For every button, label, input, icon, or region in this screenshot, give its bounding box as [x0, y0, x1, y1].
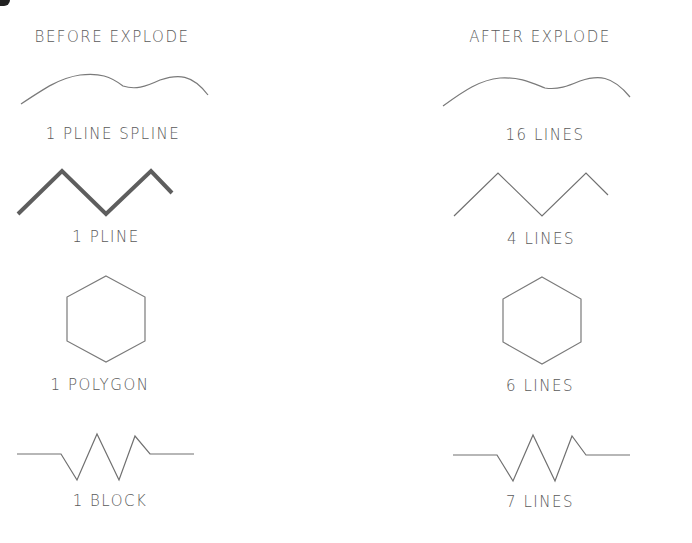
- drawing-canvas: [0, 0, 692, 543]
- label-6-lines: 6 LINES: [506, 377, 574, 395]
- before-spline-shape: [21, 74, 208, 104]
- after-lines-zigzag-shape: [454, 173, 608, 216]
- after-lines-hexagon-shape: [503, 277, 581, 364]
- label-1-polygon: 1 POLYGON: [51, 376, 150, 394]
- after-lines-resistor-shape: [453, 435, 630, 481]
- label-1-block: 1 BLOCK: [73, 492, 148, 510]
- label-16-lines: 16 LINES: [506, 126, 585, 144]
- before-pline-zigzag-shape: [18, 171, 172, 214]
- label-4-lines: 4 LINES: [507, 230, 575, 248]
- before-polygon-hexagon-shape: [67, 276, 145, 362]
- before-block-resistor-shape: [17, 434, 194, 480]
- label-7-lines: 7 LINES: [506, 493, 574, 511]
- label-1-pline-spline: 1 PLINE SPLINE: [46, 125, 181, 143]
- after-spline-shape: [443, 78, 630, 106]
- label-1-pline: 1 PLINE: [72, 228, 139, 246]
